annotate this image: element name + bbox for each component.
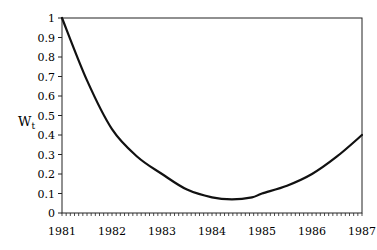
y-axis: 00.10.20.30.40.50.60.70.80.91 — [38, 12, 63, 220]
x-axis: 1981198219831984198519861987 — [48, 213, 376, 238]
y-axis-label: Wt — [18, 114, 35, 131]
y-tick-label: 0 — [48, 207, 55, 220]
series-line-wt — [62, 18, 362, 199]
y-tick-label: 0.2 — [38, 168, 56, 181]
y-tick-label: 1 — [48, 12, 55, 25]
y-axis-label-subscript: t — [31, 121, 35, 131]
line-chart: 00.10.20.30.40.50.60.70.80.91 1981198219… — [0, 0, 377, 250]
y-tick-label: 0.5 — [38, 110, 56, 123]
y-tick-label: 0.6 — [38, 90, 56, 103]
x-tick-label: 1983 — [148, 225, 176, 238]
y-axis-label-main: W — [18, 114, 32, 129]
y-tick-label: 0.9 — [38, 32, 56, 45]
x-tick-label: 1982 — [98, 225, 126, 238]
y-tick-label: 0.7 — [38, 71, 56, 84]
x-tick-label: 1984 — [198, 225, 226, 238]
y-tick-label: 0.4 — [38, 129, 56, 142]
y-tick-label: 0.8 — [38, 51, 56, 64]
x-tick-label: 1985 — [248, 225, 276, 238]
x-tick-label: 1986 — [298, 225, 326, 238]
x-tick-label: 1987 — [348, 225, 376, 238]
y-tick-label: 0.1 — [38, 188, 56, 201]
x-tick-label: 1981 — [48, 225, 76, 238]
plot-frame — [62, 18, 362, 213]
y-tick-label: 0.3 — [38, 149, 56, 162]
